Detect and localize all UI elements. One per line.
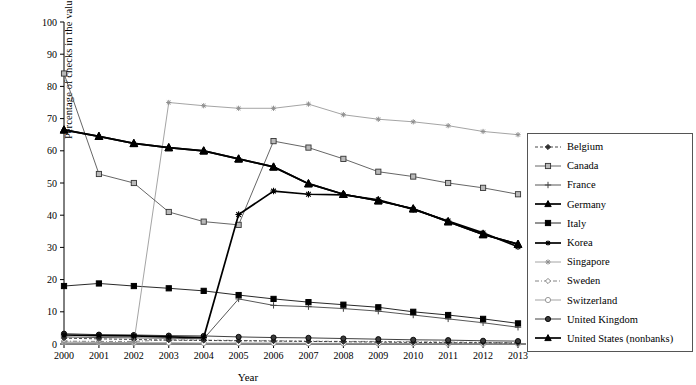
data-point xyxy=(236,334,241,339)
data-point xyxy=(200,334,206,340)
data-point xyxy=(131,180,136,185)
legend-item[interactable]: Singapore xyxy=(533,252,688,271)
x-tick-label: 2005 xyxy=(229,350,249,361)
legend-label: Sweden xyxy=(567,275,600,286)
y-tick-label: 20 xyxy=(47,274,57,285)
legend-label: Switzerland xyxy=(567,295,617,306)
legend-item[interactable]: United Kingdom xyxy=(533,310,688,329)
legend-label: Belgium xyxy=(567,141,603,152)
legend-item[interactable]: Switzerland xyxy=(533,291,688,310)
legend-swatch-filled-square-icon xyxy=(533,217,563,229)
data-point xyxy=(236,106,241,111)
data-point xyxy=(515,339,520,344)
legend-swatch-plus-icon xyxy=(533,179,563,191)
y-tick-label: 90 xyxy=(47,49,57,60)
legend-swatch-diamond-icon xyxy=(533,141,563,153)
data-point xyxy=(545,278,550,283)
data-point xyxy=(411,174,416,179)
data-point xyxy=(96,171,101,176)
x-tick-label: 2009 xyxy=(368,350,388,361)
data-point xyxy=(305,191,311,197)
data-point xyxy=(515,192,520,197)
x-tick-label: 2006 xyxy=(264,350,284,361)
data-point xyxy=(166,209,171,214)
x-tick-label: 2002 xyxy=(124,350,144,361)
legend-item[interactable]: Germany xyxy=(533,195,688,214)
data-point xyxy=(131,340,136,345)
data-point xyxy=(166,334,172,340)
data-point xyxy=(446,180,451,185)
legend-item[interactable]: Korea xyxy=(533,233,688,252)
data-point xyxy=(446,123,451,128)
data-point xyxy=(61,340,66,345)
legend-swatch-open-circle-icon xyxy=(533,294,563,306)
data-point xyxy=(96,281,101,286)
data-point xyxy=(201,103,206,108)
data-point xyxy=(61,332,67,338)
chart-figure: Percentage of checks in the value of cas… xyxy=(0,0,696,385)
data-point xyxy=(376,117,381,122)
series-line xyxy=(64,74,518,225)
y-tick-label: 30 xyxy=(47,242,57,253)
data-point xyxy=(235,211,241,217)
x-tick-label: 2000 xyxy=(54,350,74,361)
y-tick-label: 10 xyxy=(47,306,57,317)
data-point xyxy=(166,100,171,105)
data-point xyxy=(446,338,451,343)
legend-item[interactable]: France xyxy=(533,175,688,194)
data-point xyxy=(306,145,311,150)
data-point xyxy=(480,185,485,190)
legend-label: Italy xyxy=(567,218,586,229)
data-point xyxy=(375,197,381,203)
legend-item[interactable]: Italy xyxy=(533,214,688,233)
data-point xyxy=(446,312,451,317)
data-point xyxy=(545,297,550,302)
data-point xyxy=(271,139,276,144)
data-point xyxy=(166,286,171,291)
x-tick-label: 2008 xyxy=(333,350,353,361)
y-tick-label: 0 xyxy=(52,339,57,350)
legend-swatch-open-square-icon xyxy=(533,160,563,172)
data-point xyxy=(341,302,346,307)
data-point xyxy=(341,112,346,117)
data-point xyxy=(131,283,136,288)
data-point xyxy=(306,300,311,305)
x-tick-label: 2013 xyxy=(508,350,528,361)
legend-swatch-open-diamond-icon xyxy=(533,275,563,287)
data-point xyxy=(61,71,66,76)
data-point xyxy=(376,169,381,174)
data-point xyxy=(545,144,550,149)
legend-swatch-light-asterisk-icon xyxy=(533,256,563,268)
data-point xyxy=(271,335,276,340)
x-axis-label: Year xyxy=(238,371,258,383)
legend-label: France xyxy=(567,179,596,190)
legend: BelgiumCanadaFranceGermanyItalyKoreaSing… xyxy=(527,133,693,352)
series-korea xyxy=(61,188,521,341)
data-point xyxy=(376,337,381,342)
data-point xyxy=(96,340,101,345)
legend-item[interactable]: Belgium xyxy=(533,137,688,156)
x-tick-label: 2012 xyxy=(473,350,493,361)
legend-label: Germany xyxy=(567,199,606,210)
data-point xyxy=(411,119,416,124)
data-point xyxy=(515,244,521,250)
y-tick-label: 50 xyxy=(47,178,57,189)
legend-swatch-filled-triangle-icon xyxy=(533,332,563,344)
legend-swatch-filled-triangle-icon xyxy=(533,198,563,210)
legend-item[interactable]: Canada xyxy=(533,156,688,175)
x-tick-label: 2011 xyxy=(438,350,458,361)
data-point xyxy=(480,338,485,343)
data-point xyxy=(480,316,485,321)
data-point xyxy=(270,188,276,194)
series-canada xyxy=(61,71,520,228)
legend-item[interactable]: United States (nonbanks) xyxy=(533,329,688,348)
data-point xyxy=(480,230,486,236)
data-point xyxy=(445,218,451,224)
data-point xyxy=(545,221,550,226)
data-point xyxy=(341,156,346,161)
legend-label: United States (nonbanks) xyxy=(567,333,673,344)
legend-item[interactable]: Sweden xyxy=(533,271,688,290)
data-point xyxy=(545,317,550,322)
data-point xyxy=(341,336,346,341)
y-tick-label: 40 xyxy=(47,210,57,221)
